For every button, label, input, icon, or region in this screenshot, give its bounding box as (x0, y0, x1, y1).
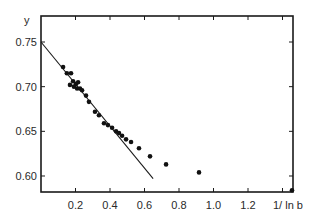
data-point (69, 71, 74, 76)
fit-line (41, 42, 153, 179)
data-point (120, 133, 125, 138)
data-point (129, 140, 134, 145)
regression-line (41, 42, 153, 179)
y-axis-label: y (24, 14, 30, 26)
data-point (102, 121, 107, 126)
x-tick-label: 0.8 (171, 199, 186, 211)
x-tick-label: 0.6 (137, 199, 152, 211)
data-point (124, 137, 129, 142)
data-point (87, 100, 92, 105)
data-point (97, 113, 102, 118)
data-point (93, 109, 98, 114)
data-point (84, 93, 89, 98)
data-point (148, 154, 153, 159)
data-points (61, 65, 295, 193)
data-point (80, 88, 85, 93)
data-point (65, 71, 70, 76)
data-point (290, 188, 295, 193)
axis-tick-labels: 0.20.40.60.81.01.20.600.650.700.75 (16, 36, 256, 211)
y-tick-label: 0.65 (16, 125, 37, 137)
y-tick-label: 0.70 (16, 81, 37, 93)
data-point (197, 170, 202, 175)
data-point (76, 80, 81, 85)
x-tick-label: 0.4 (102, 199, 117, 211)
data-point (110, 125, 115, 130)
data-point (106, 123, 111, 128)
y-tick-label: 0.60 (16, 170, 37, 182)
data-point (61, 65, 66, 70)
x-tick-label: 1.0 (206, 199, 221, 211)
data-point (68, 83, 73, 88)
x-axis-label: 1/ ln b (273, 199, 303, 211)
y-tick-label: 0.75 (16, 36, 37, 48)
x-tick-label: 1.2 (240, 199, 255, 211)
data-point (137, 146, 142, 151)
data-point (164, 162, 169, 167)
scatter-plot: 0.20.40.60.81.01.20.600.650.700.75 y 1/ … (0, 0, 315, 221)
x-tick-label: 0.2 (68, 199, 83, 211)
